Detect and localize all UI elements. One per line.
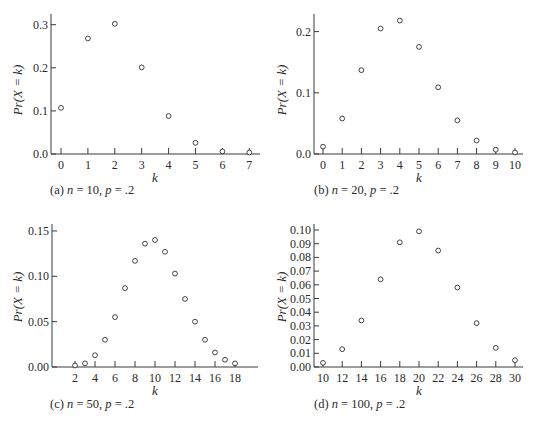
x-tick-label: 28: [490, 371, 502, 385]
data-point: [359, 318, 364, 323]
caption-d: (d) n = 100, p = .2: [314, 397, 405, 412]
x-tick-label: 22: [432, 371, 444, 385]
caption-a: (a) n = 10, p = .2: [50, 183, 134, 198]
y-tick-label: 0.04: [290, 305, 311, 319]
y-tick-label: 0.02: [290, 333, 311, 347]
data-point: [397, 240, 402, 245]
y-tick-label: 0.05: [290, 292, 311, 306]
x-tick-label: 18: [394, 371, 406, 385]
y-tick-label: 0.01: [290, 346, 311, 360]
caption-c: (c) n = 50, p = .2: [50, 397, 134, 412]
x-tick-label: 16: [375, 371, 387, 385]
x-tick-label: 12: [336, 371, 348, 385]
data-point: [493, 345, 498, 350]
y-tick-label: 0.07: [290, 264, 311, 278]
y-tick-label: 0.08: [290, 250, 311, 264]
chart-svg: 0.000.010.020.030.040.050.060.070.080.09…: [0, 0, 537, 421]
data-point: [436, 248, 441, 253]
y-tick-label: 0.10: [290, 223, 311, 237]
data-point: [378, 277, 383, 282]
data-point: [474, 321, 479, 326]
x-tick-label: 30: [509, 371, 521, 385]
data-point: [340, 347, 345, 352]
data-point: [321, 360, 326, 365]
caption-b: (b) n = 20, p = .2: [314, 183, 399, 198]
y-tick-label: 0.00: [290, 360, 311, 374]
y-tick-label: 0.03: [290, 319, 311, 333]
x-axis-label: k: [416, 383, 422, 398]
x-tick-label: 10: [317, 371, 329, 385]
y-tick-label: 0.09: [290, 237, 311, 251]
x-tick-label: 26: [471, 371, 483, 385]
x-tick-label: 14: [355, 371, 367, 385]
data-point: [455, 285, 460, 290]
y-tick-label: 0.06: [290, 278, 311, 292]
x-tick-label: 24: [451, 371, 463, 385]
data-point: [417, 229, 422, 234]
data-point: [513, 358, 518, 363]
y-axis-label: Pr(X = k): [274, 272, 289, 324]
